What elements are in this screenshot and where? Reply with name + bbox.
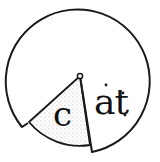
spinner-illustration: c at xyxy=(0,0,160,162)
wheel-letters: at xyxy=(94,84,128,120)
wedge-letter: c xyxy=(53,97,72,131)
spinner-wheel-graphic xyxy=(0,0,160,162)
pivot-icon xyxy=(77,73,82,78)
